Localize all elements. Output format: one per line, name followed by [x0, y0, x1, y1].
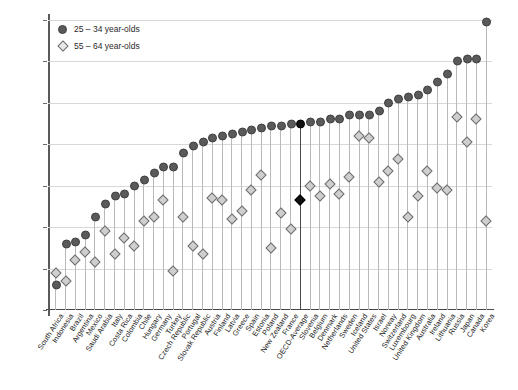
stem-line [476, 59, 477, 310]
data-point-25-34 [316, 117, 325, 126]
data-point-25-34 [111, 192, 120, 201]
stem-line [104, 204, 105, 310]
data-point-25-34 [277, 121, 286, 130]
data-point-55-64 [480, 215, 491, 226]
data-point-55-64 [197, 248, 208, 259]
stem-line [261, 128, 262, 310]
data-point-25-34 [159, 163, 168, 172]
stem-line [437, 82, 438, 310]
data-point-55-64 [461, 137, 472, 148]
data-point-25-34 [71, 237, 80, 246]
stem-line [75, 242, 76, 310]
data-point-25-34 [130, 181, 139, 190]
stem-line [212, 138, 213, 310]
stem-line [417, 95, 418, 310]
data-point-55-64 [334, 188, 345, 199]
data-point-25-34 [238, 127, 247, 136]
stem-line [270, 126, 271, 310]
data-point-25-34 [384, 98, 393, 107]
stem-line [456, 61, 457, 310]
data-point-55-64 [265, 242, 276, 253]
stem-line [388, 103, 389, 310]
data-point-55-64 [177, 211, 188, 222]
data-point-25-34 [335, 115, 344, 124]
data-point-25-34 [150, 169, 159, 178]
stem-line [359, 115, 360, 310]
y-axis-tick-mark [43, 144, 47, 145]
legend-label-55-64: 55 – 64 year-olds [74, 41, 140, 51]
stem-line [241, 132, 242, 310]
data-point-25-34 [218, 132, 227, 141]
data-point-25-34 [306, 117, 315, 126]
data-point-25-34 [267, 121, 276, 130]
data-point-55-64 [324, 178, 335, 189]
legend-item-55-64: 55 – 64 year-olds [58, 41, 140, 51]
stem-line [290, 124, 291, 310]
data-point-55-64 [70, 255, 81, 266]
data-point-55-64 [295, 195, 306, 206]
data-point-55-64 [168, 265, 179, 276]
data-point-25-34 [414, 90, 423, 99]
stem-line [427, 90, 428, 310]
stem-line [407, 97, 408, 310]
y-axis-tick-mark [43, 20, 47, 21]
stem-line [173, 167, 174, 310]
data-point-55-64 [471, 114, 482, 125]
data-point-55-64 [422, 166, 433, 177]
stem-line [222, 136, 223, 310]
data-point-55-64 [383, 166, 394, 177]
gridline [48, 310, 492, 311]
data-point-25-34 [120, 190, 129, 199]
data-point-25-34 [91, 212, 100, 221]
y-axis-tick-mark [43, 310, 47, 311]
legend-label-25-34: 25 – 34 year-olds [74, 24, 140, 34]
filled-circle-icon [58, 25, 67, 34]
data-point-25-34 [423, 86, 432, 95]
stem-line [329, 119, 330, 310]
data-point-55-64 [402, 211, 413, 222]
stem-line [163, 167, 164, 310]
data-point-25-34 [345, 111, 354, 120]
data-point-55-64 [432, 182, 443, 193]
data-point-25-34 [169, 163, 178, 172]
stem-line [124, 194, 125, 310]
data-point-25-34 [199, 138, 208, 147]
stem-line [153, 173, 154, 310]
data-point-25-34 [404, 92, 413, 101]
stem-line [349, 115, 350, 310]
stem-line [182, 153, 183, 310]
stem-line [143, 180, 144, 311]
data-point-25-34 [228, 129, 237, 138]
data-point-55-64 [344, 172, 355, 183]
data-point-25-34 [179, 148, 188, 157]
data-point-55-64 [80, 246, 91, 257]
data-point-55-64 [314, 190, 325, 201]
chart-legend: 25 – 34 year-olds 55 – 64 year-olds [58, 24, 140, 51]
y-axis-tick-mark [43, 227, 47, 228]
data-point-25-34 [287, 120, 296, 129]
data-point-25-34 [296, 120, 305, 129]
data-point-55-64 [285, 224, 296, 235]
stem-line [319, 122, 320, 311]
open-diamond-icon [57, 40, 68, 51]
data-point-55-64 [158, 195, 169, 206]
data-point-25-34 [101, 200, 110, 209]
data-point-55-64 [363, 132, 374, 143]
stem-line [300, 124, 302, 310]
y-axis-tick-mark [43, 61, 47, 62]
data-point-25-34 [208, 134, 217, 143]
stem-line [251, 130, 252, 310]
data-point-55-64 [187, 240, 198, 251]
data-point-25-34 [247, 125, 256, 134]
stem-line [339, 119, 340, 310]
data-point-55-64 [256, 170, 267, 181]
stem-line [378, 111, 379, 310]
data-point-55-64 [275, 207, 286, 218]
data-point-55-64 [412, 190, 423, 201]
data-point-55-64 [451, 112, 462, 123]
stem-line [192, 146, 193, 310]
data-point-25-34 [257, 123, 266, 132]
data-point-25-34 [62, 239, 71, 248]
data-point-25-34 [189, 142, 198, 151]
y-axis-tick-mark [43, 103, 47, 104]
